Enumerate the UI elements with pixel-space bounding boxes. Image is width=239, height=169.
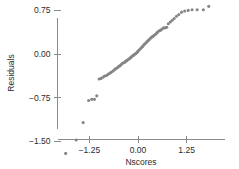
data-point (165, 26, 168, 29)
data-point (90, 98, 93, 101)
plot-canvas: 0.750.00−0.75−1.50 −1.250.001.25 Nscores… (0, 0, 239, 169)
y-axis-tick-label: 0.00 (34, 49, 51, 59)
data-point (190, 8, 193, 11)
data-point (202, 8, 205, 11)
data-point (93, 98, 96, 101)
data-point (87, 99, 90, 102)
data-point (183, 9, 186, 12)
data-point (207, 5, 210, 8)
x-axis: −1.250.001.25 (58, 136, 225, 155)
data-point (75, 138, 78, 141)
data-point (180, 11, 183, 14)
data-point (177, 13, 180, 16)
data-point (196, 8, 199, 11)
data-points-layer (64, 5, 210, 155)
data-point (95, 94, 98, 97)
data-point (173, 17, 176, 20)
x-axis-title: Nscores (125, 157, 156, 167)
data-point (82, 121, 85, 124)
qq-plot-figure: 0.750.00−0.75−1.50 −1.250.001.25 Nscores… (0, 0, 239, 169)
data-point (187, 9, 190, 12)
x-axis-tick-label: −1.25 (79, 145, 101, 155)
y-axis-title: Residuals (6, 54, 16, 91)
data-point (64, 152, 67, 155)
x-axis-tick-label: 0.00 (130, 145, 147, 155)
y-axis-tick-label: −0.75 (29, 93, 51, 103)
x-axis-tick-label: 1.25 (178, 145, 195, 155)
y-axis-tick-label: 0.75 (34, 5, 51, 15)
y-axis-tick-label: −1.50 (29, 136, 51, 146)
y-axis: 0.750.00−0.75−1.50 (29, 5, 61, 146)
